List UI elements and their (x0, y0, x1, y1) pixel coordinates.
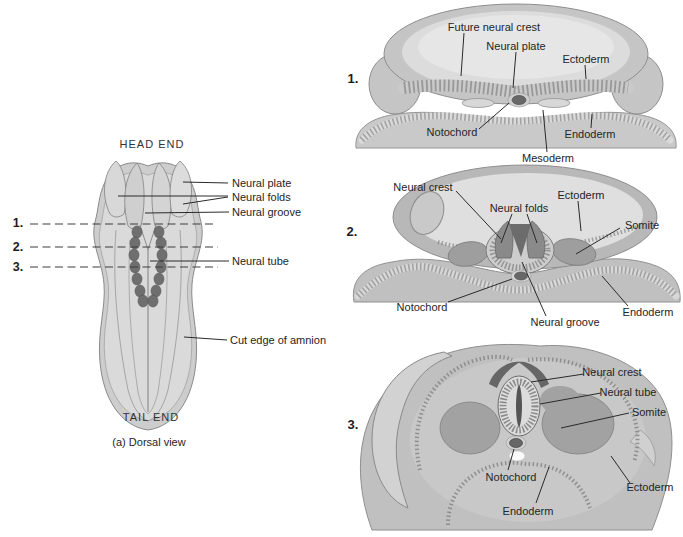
label-somite-s2: Somite (625, 219, 659, 231)
section-marker-2: 2. (13, 241, 23, 253)
label-neural-groove-s2: Neural groove (530, 316, 599, 328)
section-marker-1: 1. (13, 217, 23, 229)
neurulation-figure: HEAD END 1. 2. 3. Neural plate Neural fo… (0, 0, 683, 537)
tail-end-label: TAIL END (123, 411, 179, 423)
label-neural-plate-s1: Neural plate (486, 40, 545, 52)
label-somite-s3: Somite (632, 406, 666, 418)
label-neural-crest-s3: Neural crest (582, 366, 641, 378)
head-end-label: HEAD END (120, 138, 185, 150)
figure-artwork (0, 0, 683, 537)
label-ectoderm-s1: Ectoderm (562, 53, 609, 65)
label-neural-tube-s3: Neural tube (600, 386, 657, 398)
cross-section-3-number: 3. (348, 419, 359, 431)
label-neural-groove-dorsal: Neural groove (232, 206, 301, 218)
label-cut-edge-of-amnion: Cut edge of amnion (230, 334, 326, 346)
cross-section-2-number: 2. (347, 226, 358, 238)
label-endoderm-s3: Endoderm (503, 505, 554, 517)
label-neural-folds-s2: Neural folds (490, 202, 549, 214)
dorsal-embryo-illustration (30, 161, 229, 430)
label-neural-folds-dorsal: Neural folds (232, 191, 291, 203)
label-ectoderm-s2: Ectoderm (557, 189, 604, 201)
label-neural-crest-s2: Neural crest (393, 181, 452, 193)
label-ectoderm-s3: Ectoderm (626, 481, 673, 493)
dorsal-view-caption: (a) Dorsal view (112, 436, 185, 448)
section-marker-3: 3. (13, 261, 23, 273)
label-endoderm-s1: Endoderm (565, 128, 616, 140)
label-endoderm-s2: Endoderm (623, 306, 674, 318)
cross-section-1-number: 1. (348, 73, 359, 85)
label-mesoderm-s1: Mesoderm (522, 152, 574, 164)
label-neural-tube-dorsal: Neural tube (232, 255, 289, 267)
label-notochord-s3: Notochord (486, 471, 537, 483)
label-future-neural-crest-s1: Future neural crest (448, 21, 540, 33)
label-notochord-s2: Notochord (397, 301, 448, 313)
label-notochord-s1: Notochord (427, 126, 478, 138)
label-neural-plate-dorsal: Neural plate (232, 177, 291, 189)
